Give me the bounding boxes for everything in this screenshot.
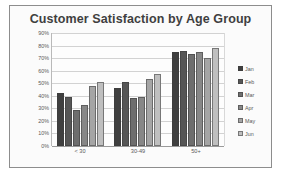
y-axis-tick-label: 20%	[24, 118, 49, 124]
legend-item[interactable]: Jan	[238, 62, 280, 75]
bar[interactable]	[188, 54, 195, 146]
legend-swatch-icon	[238, 92, 243, 97]
y-axis-tick-label: 80%	[24, 43, 49, 49]
bar[interactable]	[65, 97, 72, 146]
x-axis-tick-label: 30-49	[109, 148, 167, 154]
legend-item-label: May	[245, 118, 255, 124]
bar-series-container	[52, 33, 224, 146]
legend-item[interactable]: Feb	[238, 75, 280, 88]
bar[interactable]	[146, 79, 153, 146]
x-axis-tick-label: < 30	[51, 148, 109, 154]
bar[interactable]	[97, 82, 104, 146]
legend-item-label: Jan	[245, 66, 254, 72]
bar[interactable]	[81, 105, 88, 146]
legend-item[interactable]: Jun	[238, 127, 280, 140]
bar[interactable]	[138, 97, 145, 146]
bar[interactable]	[57, 93, 64, 146]
legend-swatch-icon	[238, 105, 243, 110]
bar[interactable]	[73, 110, 80, 146]
x-axis-tick-label: 50+	[167, 148, 225, 154]
bar-group	[52, 33, 109, 146]
y-axis-tick-label: 70%	[24, 55, 49, 61]
bar[interactable]	[204, 58, 211, 146]
chart-title: Customer Satisfaction by Age Group	[10, 12, 271, 26]
y-axis-tick-label: 0%	[24, 143, 49, 149]
chart-frame: Customer Satisfaction by Age Group 90%80…	[9, 5, 272, 168]
bar[interactable]	[196, 52, 203, 146]
bar[interactable]	[122, 82, 129, 146]
bar[interactable]	[89, 86, 96, 146]
y-axis-tick-label: 40%	[24, 93, 49, 99]
bar[interactable]	[180, 51, 187, 146]
legend-item[interactable]: May	[238, 114, 280, 127]
chart-legend: JanFebMarAprMayJun	[238, 62, 280, 140]
legend-swatch-icon	[238, 131, 243, 136]
legend-item[interactable]: Mar	[238, 88, 280, 101]
bar[interactable]	[154, 74, 161, 146]
bar[interactable]	[130, 98, 137, 146]
bar[interactable]	[212, 48, 219, 146]
y-axis-tick-label: 50%	[24, 80, 49, 86]
y-axis: 90%80%70%60%50%40%30%20%10%0%	[24, 33, 49, 146]
plot-area	[51, 33, 225, 146]
legend-item-label: Feb	[245, 79, 254, 85]
bar-group	[109, 33, 166, 146]
legend-item-label: Jun	[245, 131, 254, 137]
y-axis-tick-label: 90%	[24, 30, 49, 36]
legend-item-label: Mar	[245, 92, 254, 98]
bar[interactable]	[114, 88, 121, 146]
y-axis-tick-label: 60%	[24, 68, 49, 74]
bar-group	[167, 33, 224, 146]
y-axis-tick-label: 10%	[24, 130, 49, 136]
legend-swatch-icon	[238, 118, 243, 123]
gridline	[52, 146, 224, 147]
legend-swatch-icon	[238, 79, 243, 84]
y-axis-tick-label: 30%	[24, 105, 49, 111]
legend-swatch-icon	[238, 66, 243, 71]
bar[interactable]	[172, 52, 179, 146]
x-axis: < 3030-4950+	[51, 148, 225, 154]
legend-item-label: Apr	[245, 105, 253, 111]
legend-item[interactable]: Apr	[238, 101, 280, 114]
